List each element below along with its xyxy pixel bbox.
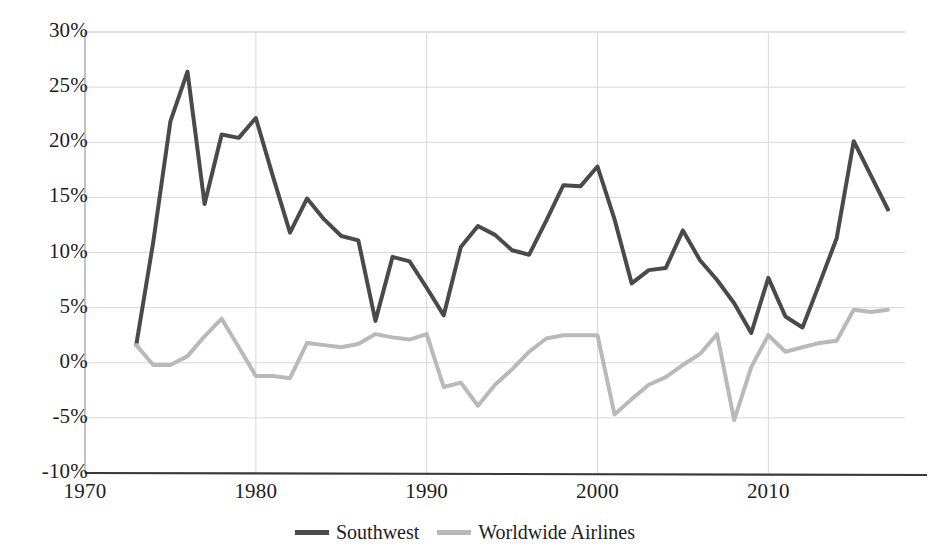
- chart-legend: SouthwestWorldwide Airlines: [0, 521, 930, 544]
- legend-label: Southwest: [336, 521, 419, 544]
- legend-item: Worldwide Airlines: [437, 521, 635, 544]
- plot-area: [0, 0, 930, 559]
- x-tick-label: 2010: [723, 479, 813, 504]
- legend-swatch-icon: [437, 530, 471, 535]
- y-tick-label: 0%: [16, 349, 88, 374]
- y-tick-label: 5%: [16, 294, 88, 319]
- y-tick-label: 30%: [16, 18, 88, 43]
- gridlines: [85, 32, 905, 473]
- series-line-southwest: [136, 72, 888, 345]
- x-tick-label: 1990: [382, 479, 472, 504]
- y-tick-label: 10%: [16, 239, 88, 264]
- axis-lines: [85, 32, 927, 475]
- legend-item: Southwest: [295, 521, 419, 544]
- series-line-worldwide-airlines: [136, 310, 888, 420]
- legend-swatch-icon: [295, 530, 329, 535]
- x-tick-label: 2000: [553, 479, 643, 504]
- x-tick-label: 1980: [211, 479, 301, 504]
- y-tick-label: 15%: [16, 183, 88, 208]
- y-tick-label: 25%: [16, 73, 88, 98]
- y-tick-label: -5%: [16, 404, 88, 429]
- legend-label: Worldwide Airlines: [478, 521, 635, 544]
- y-tick-label: 20%: [16, 128, 88, 153]
- x-axis-line: [85, 473, 927, 475]
- line-chart: 30%25%20%15%10%5%0%-5%-10% 1970198019902…: [0, 0, 930, 559]
- x-tick-label: 1970: [40, 479, 130, 504]
- series-lines: [136, 72, 888, 420]
